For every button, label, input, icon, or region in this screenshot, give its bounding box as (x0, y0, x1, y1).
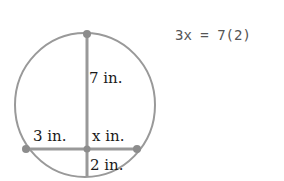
left-point (22, 145, 30, 153)
top-point (83, 30, 91, 38)
intersection-point (84, 146, 91, 153)
upper-segment-label: 7 in. (89, 69, 123, 87)
right-point (133, 145, 141, 153)
right-segment-label: x in. (92, 127, 124, 145)
left-segment-label: 3 in. (33, 127, 67, 145)
lower-segment-label: 2 in. (90, 156, 124, 174)
equation: 3x = 7(2) (175, 27, 251, 43)
circle (15, 33, 155, 177)
